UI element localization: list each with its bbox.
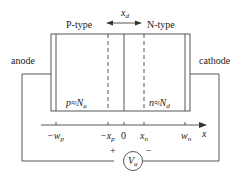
axis-label-x: x [201, 128, 207, 139]
anode-wire [22, 74, 114, 161]
minus-sign: − [146, 145, 152, 156]
plus-sign: + [110, 145, 116, 156]
tick-label-zero: 0 [121, 130, 126, 141]
va-label: Va [128, 155, 138, 168]
pn-junction-diagram: P-type N-type xd anode cathode p≈Na n≈Nd… [0, 0, 243, 186]
cathode-label: cathode [199, 55, 231, 66]
tick-label-neg-xp: −xp [100, 130, 115, 143]
n-type-label: N-type [147, 19, 175, 30]
arrow-left-icon [106, 21, 113, 26]
cathode-wire [143, 74, 219, 161]
arrow-right-icon [135, 21, 142, 26]
tick-label-wn: wn [181, 130, 192, 143]
p-concentration-label: p≈Na [65, 97, 87, 110]
tick-label-xn: xn [139, 130, 148, 143]
tick-label-neg-wp: −wp [47, 130, 64, 143]
anode-label: anode [11, 55, 35, 66]
n-concentration-label: n≈Nd [149, 97, 170, 110]
xd-label: xd [120, 7, 129, 20]
p-type-label: P-type [66, 19, 93, 30]
